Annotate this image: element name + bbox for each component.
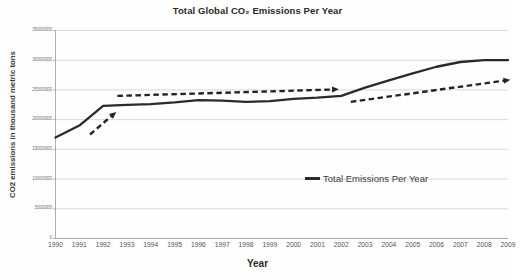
data-series: [56, 60, 509, 137]
legend: Total Emissions Per Year: [305, 173, 428, 184]
axis-lines: [53, 31, 508, 239]
trend-arrows: [90, 78, 510, 135]
legend-item-label: Total Emissions Per Year: [323, 173, 428, 184]
gridlines: [56, 31, 509, 239]
legend-line-swatch: [305, 177, 320, 180]
